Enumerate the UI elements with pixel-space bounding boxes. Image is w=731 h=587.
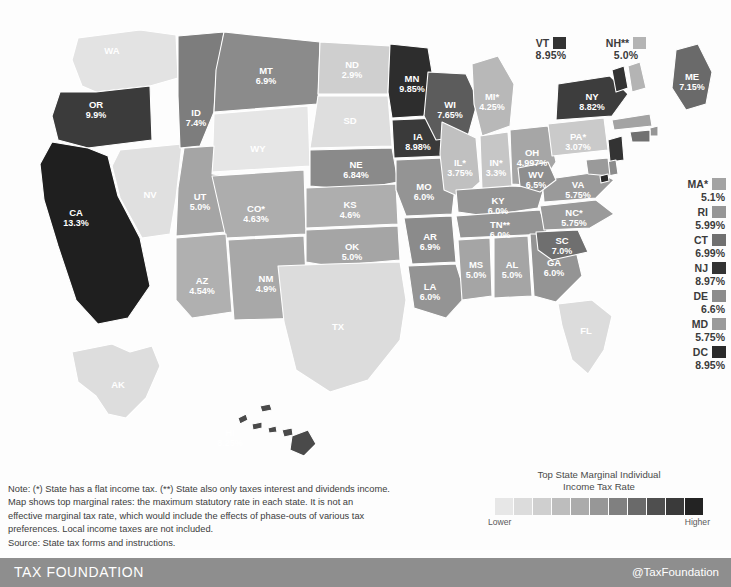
legend-swatch-2	[533, 498, 551, 515]
callout-ma-label: MA*	[652, 178, 726, 191]
state-label-wy: WY	[250, 143, 266, 154]
map-svg: WAOR9.9%CA13.3%ID7.4%NVMT6.9%WYUT5.0%AZ4…	[0, 0, 731, 460]
note-source-line: Source: State tax forms and instructions…	[8, 537, 463, 550]
legend-swatch-5	[590, 498, 608, 515]
state-label-nv: NV	[143, 189, 157, 200]
legend-swatch-4	[571, 498, 589, 515]
callout-ct: CT6.99%	[652, 234, 726, 260]
state-shape-ri[interactable]	[650, 126, 658, 136]
legend-swatch-1	[514, 498, 532, 515]
callout-vt-swatch	[553, 37, 566, 49]
callout-dc: DC8.95%	[652, 346, 726, 372]
legend-swatch-7	[628, 498, 646, 515]
state-shape-ma[interactable]	[612, 114, 652, 130]
callout-de: DE6.6%	[652, 290, 726, 316]
callout-vt-rate: 8.95%	[521, 49, 581, 62]
state-shape-dc[interactable]	[600, 174, 609, 183]
legend-swatch-0	[495, 498, 513, 515]
callout-nj-label: NJ	[652, 262, 726, 275]
callout-md: MD5.75%	[652, 318, 726, 344]
callout-dc-label: DC	[652, 346, 726, 359]
callout-de-label: DE	[652, 290, 726, 303]
legend-title-line-2: Income Tax Rate	[488, 481, 710, 493]
callout-de-swatch	[712, 290, 726, 302]
state-shape-nj[interactable]	[608, 136, 624, 162]
state-label-tx: TX	[332, 321, 345, 332]
state-shape-fl[interactable]	[558, 300, 612, 374]
legend: Top State Marginal Individual Income Tax…	[488, 469, 710, 527]
callout-ct-label: CT	[652, 234, 726, 247]
state-shape-hi-islet-0[interactable]	[238, 414, 248, 424]
state-shape-wy[interactable]	[212, 106, 310, 172]
legend-title-line-1: Top State Marginal Individual	[488, 469, 710, 481]
footer-bar: TAX FOUNDATION @TaxFoundation	[0, 558, 731, 587]
footer-social-handle[interactable]: @TaxFoundation	[632, 566, 719, 578]
callout-ri: RI5.99%	[652, 206, 726, 232]
callout-ma: MA*5.1%	[652, 178, 726, 204]
state-label-co: CO*4.63%	[243, 203, 269, 224]
state-shape-wa[interactable]	[72, 30, 178, 92]
callout-dc-rate: 8.95%	[652, 359, 726, 372]
state-shape-ct[interactable]	[630, 130, 650, 142]
note-block: Note: (*) State has a flat income tax. (…	[8, 483, 463, 550]
callout-nh: NH** 5.0%	[593, 36, 659, 62]
state-shape-hi-islet-2[interactable]	[268, 426, 277, 433]
state-label-sd: SD	[343, 115, 356, 126]
callout-md-rate: 5.75%	[652, 331, 726, 344]
state-label-wa: WA	[104, 45, 119, 56]
state-label-tn: TN**6.0%	[490, 219, 511, 240]
callout-ma-swatch	[712, 178, 726, 190]
legend-swatch-8	[647, 498, 665, 515]
northeast-callout-list: MA*5.1%RI5.99%CT6.99%NJ8.97%DE6.6%MD5.75…	[652, 178, 726, 374]
legend-swatch-3	[552, 498, 570, 515]
state-shape-hi-islet-4[interactable]	[290, 430, 316, 456]
callout-vt-label: VT	[536, 37, 549, 50]
callout-ri-rate: 5.99%	[652, 219, 726, 232]
legend-high-label: Higher	[685, 517, 710, 527]
state-label-wv: WV6.5%	[526, 169, 547, 190]
state-label-mo: MO6.0%	[414, 181, 435, 202]
note-line-2: Map shows top marginal rates: the maximu…	[8, 496, 463, 509]
callout-ri-label: RI	[652, 206, 726, 219]
state-label-fl: FL	[580, 325, 592, 336]
callout-ct-rate: 6.99%	[652, 247, 726, 260]
note-line-1: Note: (*) State has a flat income tax. (…	[8, 483, 463, 496]
legend-swatch-9	[666, 498, 684, 515]
note-line-4: preferences. Local income taxes are not …	[8, 523, 463, 536]
legend-swatch-10	[685, 498, 703, 515]
footer-brand: TAX FOUNDATION	[14, 564, 144, 580]
callout-nj-rate: 8.97%	[652, 275, 726, 288]
state-shape-md[interactable]	[586, 158, 610, 176]
us-choropleth-map: WAOR9.9%CA13.3%ID7.4%NVMT6.9%WYUT5.0%AZ4…	[0, 0, 731, 460]
callout-nh-rate: 5.0%	[593, 49, 659, 62]
infographic-root: WAOR9.9%CA13.3%ID7.4%NVMT6.9%WYUT5.0%AZ4…	[0, 0, 731, 587]
callout-nh-label: NH**	[606, 37, 629, 50]
legend-color-bar	[488, 498, 710, 515]
legend-swatch-6	[609, 498, 627, 515]
callout-ri-swatch	[712, 206, 726, 218]
callout-ct-swatch	[712, 234, 726, 246]
callout-nh-swatch	[633, 37, 646, 49]
state-label-nm: NM4.9%	[256, 273, 277, 294]
callout-ma-rate: 5.1%	[652, 191, 726, 204]
state-label-hi: HI8.25%	[217, 427, 243, 448]
callout-vt: VT 8.95%	[521, 36, 581, 62]
state-shape-nh[interactable]	[628, 62, 646, 92]
callout-de-rate: 6.6%	[652, 303, 726, 316]
legend-low-label: Lower	[488, 517, 511, 527]
note-line-3: effective marginal tax rate, which would…	[8, 510, 463, 523]
callout-nj: NJ8.97%	[652, 262, 726, 288]
callout-md-swatch	[712, 318, 726, 330]
callout-md-label: MD	[652, 318, 726, 331]
state-shape-hi[interactable]	[260, 404, 272, 412]
state-label-ak: AK	[111, 379, 125, 390]
state-shape-hi-islet-3[interactable]	[282, 428, 293, 437]
callout-nj-swatch	[712, 262, 726, 274]
state-shape-hi-islet-1[interactable]	[252, 422, 262, 430]
state-shape-la[interactable]	[408, 264, 466, 318]
callout-dc-swatch	[712, 346, 726, 358]
